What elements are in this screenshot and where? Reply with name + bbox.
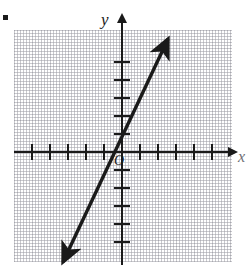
graph-figure: y x O (0, 0, 248, 272)
y-axis-label: y (101, 11, 109, 28)
x-axis (14, 144, 236, 160)
coordinate-plane (0, 0, 248, 272)
x-axis-label: x (238, 149, 245, 165)
origin-label: O (114, 154, 124, 168)
plotted-line (63, 39, 168, 262)
